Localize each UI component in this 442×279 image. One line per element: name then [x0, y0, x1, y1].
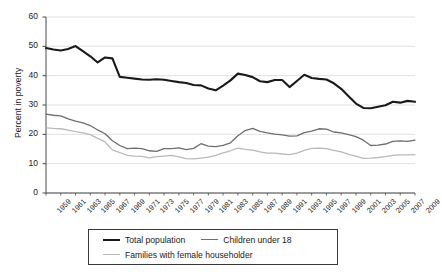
legend-item[interactable]: Total population: [103, 235, 185, 245]
y-axis-tick-label: 10: [20, 158, 38, 168]
chart-legend: Total populationChildren under 18Familie…: [88, 229, 338, 265]
y-axis-tick-label: 40: [20, 70, 38, 80]
legend-row: Total populationChildren under 18: [89, 232, 337, 247]
y-axis-tick-label: 30: [20, 99, 38, 109]
y-axis-tick-label: 0: [20, 187, 38, 197]
legend-label: Total population: [125, 235, 185, 245]
y-axis-tick-label: 60: [20, 11, 38, 21]
series-line-1: [46, 114, 415, 151]
series-line-0: [46, 46, 415, 108]
legend-swatch-line-icon: [103, 254, 120, 255]
legend-item[interactable]: Children under 18: [201, 235, 291, 245]
legend-label: Children under 18: [223, 235, 291, 245]
legend-swatch-line-icon: [103, 239, 120, 241]
legend-label: Families with female householder: [125, 250, 253, 260]
y-axis-tick-label: 50: [20, 40, 38, 50]
legend-swatch-line-icon: [201, 239, 218, 240]
legend-item[interactable]: Families with female householder: [103, 250, 253, 260]
y-axis-tick-label: 20: [20, 128, 38, 138]
legend-row: Families with female householder: [89, 247, 337, 262]
